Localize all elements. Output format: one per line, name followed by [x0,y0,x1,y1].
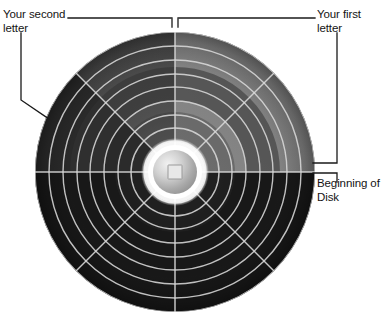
callout-beginning-of-disk: Beginning of Disk [317,177,387,204]
callout-your-second-letter: Your second letter [3,8,73,35]
leader-first-letter-pointer [313,33,337,163]
disk-platter [35,32,315,312]
figure-canvas: Your second letter Your first letter Beg… [0,0,387,326]
spindle-hole [168,165,182,179]
callout-your-first-letter: Your first letter [317,8,385,35]
leader-second-letter-pointer [21,33,49,119]
disk-hub [141,138,209,206]
disk-platter-diagram [0,0,387,326]
